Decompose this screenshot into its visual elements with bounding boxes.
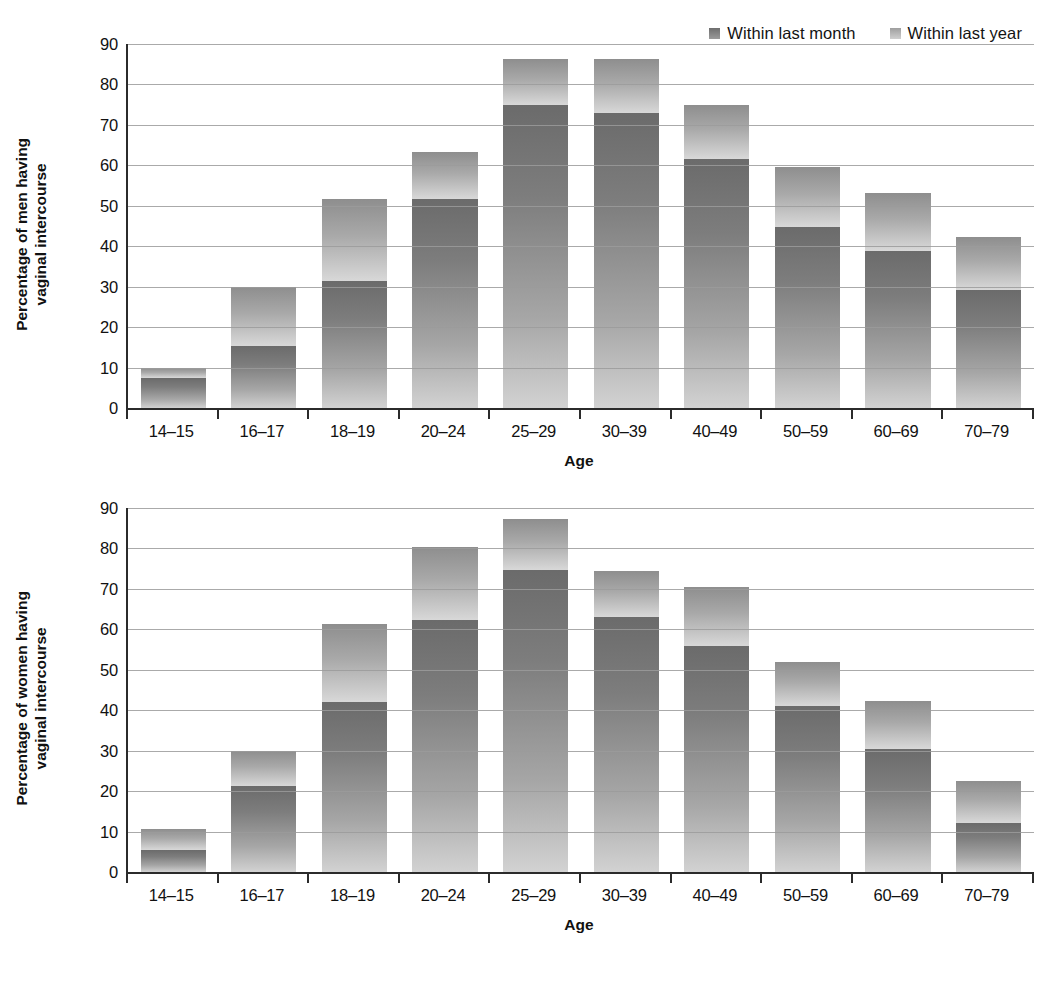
stacked-bar [594,59,659,408]
x-axis-ticks-men [126,410,1032,420]
x-tick-label: 50–59 [760,422,851,441]
stacked-bar [956,781,1021,872]
x-tick-mark [760,410,762,419]
bar-slot [762,508,853,872]
bar-segment-within-last-year [594,571,659,618]
bar-segment-within-last-month [141,850,206,872]
bar-slot [128,44,219,408]
y-tick-label: 50 [100,196,118,215]
y-axis-title-women-line1: Percentage of women having [12,591,31,805]
bar-slot [581,44,672,408]
y-tick-label: 70 [100,579,118,598]
y-tick-label: 40 [100,237,118,256]
y-tick-label: 0 [109,399,118,418]
gridline [128,368,1034,369]
bar-segment-within-last-month [775,706,840,872]
x-tick-label: 14–15 [126,886,217,905]
bar-segment-within-last-year [684,587,749,646]
bar-slot [219,44,310,408]
legend-item-within-last-month: Within last month [709,24,855,43]
x-tick-slot [307,874,398,884]
bar-slot [309,508,400,872]
gridline [128,327,1034,328]
bar-segment-within-last-year [503,519,568,571]
bar-segment-within-last-year [412,547,477,621]
bar-segment-within-last-month [503,570,568,872]
x-tick-slot [670,874,761,884]
x-tick-label: 18–19 [307,422,398,441]
y-axis-ticks-women: 0102030405060708090 [86,508,118,872]
bar-slot [128,508,219,872]
x-tick-label: 40–49 [670,422,761,441]
gridline [128,710,1034,711]
bar-segment-within-last-month [594,617,659,872]
gridline [128,548,1034,549]
x-tick-mark [217,410,219,419]
stacked-bar [503,59,568,408]
plot-area-men [126,44,1034,410]
stacked-bar [322,624,387,872]
y-tick-label: 40 [100,701,118,720]
bar-slot [490,44,581,408]
x-axis-labels-women: 14–1516–1718–1920–2425–2930–3940–4950–59… [126,886,1032,905]
bar-segment-within-last-month [322,281,387,408]
x-tick-slot [851,874,942,884]
stacked-bar [231,751,296,872]
x-tick-slot [851,410,942,420]
x-tick-mark [670,874,672,883]
bar-segment-within-last-month [956,823,1021,872]
legend-item-within-last-year: Within last year [890,24,1022,43]
y-tick-label: 0 [109,863,118,882]
y-tick-label: 50 [100,660,118,679]
bar-segment-within-last-year [231,751,296,786]
legend-label-year: Within last year [908,24,1022,43]
stacked-bar [322,199,387,408]
bar-slot [581,508,672,872]
x-tick-slot [760,410,851,420]
stacked-bar [865,701,930,872]
x-tick-mark [670,410,672,419]
gridline [128,125,1034,126]
bar-slot [400,508,491,872]
x-tick-mark [1032,410,1034,419]
gridline [128,751,1034,752]
x-tick-label: 18–19 [307,886,398,905]
bar-segment-within-last-year [956,781,1021,823]
x-tick-slot [488,874,579,884]
x-tick-slot [217,874,308,884]
x-tick-mark [488,874,490,883]
bar-segment-within-last-month [594,113,659,408]
gridline [128,287,1034,288]
y-tick-label: 20 [100,782,118,801]
bar-segment-within-last-month [865,251,930,408]
x-tick-label: 30–39 [579,886,670,905]
y-tick-label: 30 [100,741,118,760]
bar-segment-within-last-year [141,368,206,377]
y-tick-label: 30 [100,277,118,296]
x-tick-mark [579,874,581,883]
x-tick-mark [851,410,853,419]
y-tick-label: 90 [100,35,118,54]
gridline [128,629,1034,630]
bar-segment-within-last-month [231,346,296,408]
bar-segment-within-last-year [594,59,659,112]
x-tick-label: 20–24 [398,422,489,441]
y-tick-label: 10 [100,358,118,377]
x-tick-label: 60–69 [851,422,942,441]
bar-segment-within-last-month [231,786,296,872]
x-tick-slot [941,410,1032,420]
bar-group-women [128,508,1034,872]
legend-swatch-year-icon [890,28,901,39]
bar-segment-within-last-month [684,646,749,872]
x-tick-mark [488,410,490,419]
x-axis-ticks-women [126,874,1032,884]
chart-women: Percentage of women having vaginal inter… [0,508,1054,948]
bar-segment-within-last-year [231,287,296,346]
bar-segment-within-last-month [412,199,477,409]
x-tick-label: 60–69 [851,886,942,905]
bar-slot [762,44,853,408]
x-tick-slot [670,410,761,420]
x-axis-title-women: Age [126,916,1032,934]
bar-slot [943,44,1034,408]
bar-segment-within-last-year [322,624,387,702]
